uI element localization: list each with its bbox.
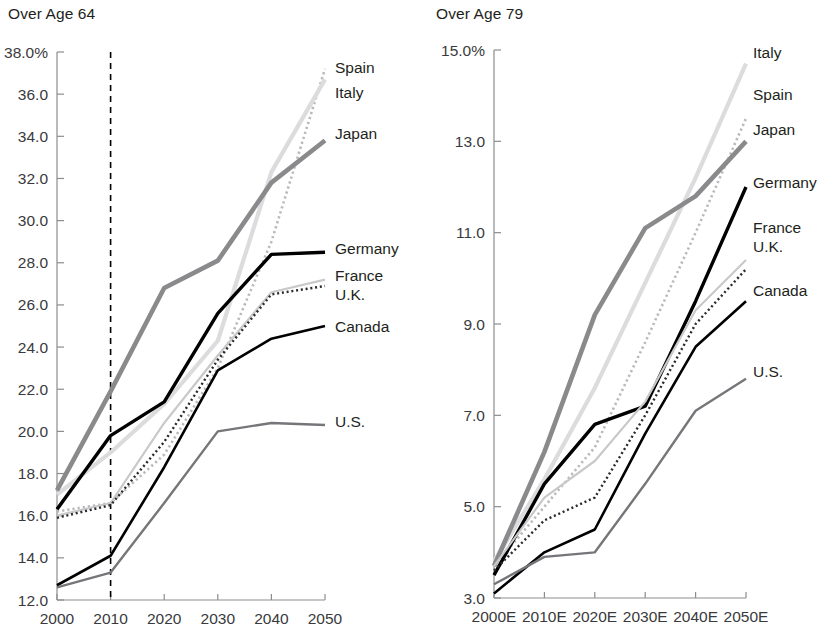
series-line-germany: [57, 252, 325, 509]
y-tick-label: 3.0: [463, 590, 485, 607]
x-tick-label: 2030: [201, 610, 236, 627]
x-tick-label: 2050: [308, 610, 343, 627]
y-tick-label: 9.0: [463, 316, 485, 333]
series-line-italy: [57, 79, 325, 494]
y-tick-label: 16.0: [18, 507, 49, 524]
y-tick-label: 24.0: [18, 339, 49, 356]
y-tick-label: 36.0: [18, 86, 49, 103]
series-line-japan: [57, 141, 325, 491]
y-tick-label: 26.0: [18, 296, 49, 313]
figure-container: Over Age 64 12.014.016.018.020.022.024.0…: [0, 0, 826, 632]
y-tick-label: 28.0: [18, 254, 49, 271]
series-label-france: France: [753, 219, 801, 236]
series-label-japan: Japan: [335, 125, 377, 142]
y-tick-label: 14.0: [18, 549, 49, 566]
y-tick-label: 13.0: [455, 133, 486, 150]
plot-area-over-age-79: 3.05.07.09.011.013.015.0%2000E2010E2020E…: [413, 0, 826, 632]
y-tick-label: 7.0: [463, 407, 485, 424]
series-label-germany: Germany: [753, 174, 817, 191]
x-tick-label: 2040E: [673, 608, 718, 625]
x-tick-label: 2030E: [623, 608, 668, 625]
series-label-canada: Canada: [753, 282, 808, 299]
series-line-france: [494, 260, 746, 566]
series-label-spain: Spain: [335, 59, 375, 76]
series-label-italy: Italy: [753, 44, 782, 61]
y-tick-label: 32.0: [18, 170, 49, 187]
x-tick-label: 2020E: [572, 608, 617, 625]
series-label-us: U.S.: [335, 413, 365, 430]
x-tick-label: 2000E: [472, 608, 517, 625]
chart-panel-over-age-64: Over Age 64 12.014.016.018.020.022.024.0…: [0, 0, 413, 632]
y-tick-label: 34.0: [18, 128, 49, 145]
x-tick-label: 2040: [254, 610, 289, 627]
x-tick-label: 2010E: [522, 608, 567, 625]
series-label-france: France: [335, 267, 383, 284]
series-label-us: U.S.: [753, 363, 783, 380]
series-label-japan: Japan: [753, 121, 795, 138]
series-label-canada: Canada: [335, 318, 390, 335]
series-label-germany: Germany: [335, 240, 399, 257]
y-tick-label: 15.0%: [441, 42, 485, 59]
series-line-uk: [494, 269, 746, 570]
y-tick-label: 30.0: [18, 212, 49, 229]
y-tick-label: 38.0%: [4, 44, 48, 61]
y-tick-label: 22.0: [18, 381, 49, 398]
series-label-uk: U.K.: [335, 286, 365, 303]
y-tick-label: 11.0: [456, 224, 485, 241]
series-label-spain: Spain: [753, 86, 793, 103]
series-line-canada: [494, 301, 746, 593]
y-tick-label: 12.0: [18, 592, 49, 609]
y-tick-label: 20.0: [18, 423, 49, 440]
y-tick-label: 5.0: [463, 498, 485, 515]
series-line-uk: [57, 286, 325, 518]
plot-area-over-age-64: 12.014.016.018.020.022.024.026.028.030.0…: [0, 0, 413, 632]
x-tick-label: 2010: [93, 610, 128, 627]
series-label-uk: U.K.: [753, 238, 783, 255]
series-line-france: [57, 280, 325, 516]
series-line-italy: [494, 64, 746, 562]
x-tick-label: 2020: [147, 610, 182, 627]
x-tick-label: 2000: [40, 610, 75, 627]
chart-panel-over-age-79: Over Age 79 3.05.07.09.011.013.015.0%200…: [413, 0, 826, 632]
x-tick-label: 2050E: [724, 608, 769, 625]
series-label-italy: Italy: [335, 84, 364, 101]
y-tick-label: 18.0: [18, 465, 49, 482]
